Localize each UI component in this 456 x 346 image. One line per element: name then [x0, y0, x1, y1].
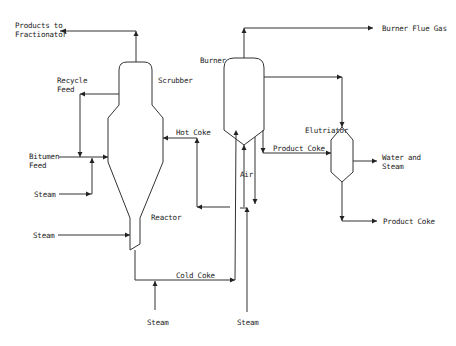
- label-steam-cold-coke: Steam: [147, 318, 169, 327]
- label-bitumen-feed: Bitumen Feed: [29, 152, 59, 170]
- label-scrubber: Scrubber: [158, 76, 193, 85]
- label-elutriator: Elutriator: [305, 126, 348, 135]
- label-reactor: Reactor: [151, 213, 181, 222]
- label-line: Bitumen: [29, 152, 59, 161]
- steam-feed-line: [59, 158, 92, 194]
- label-products-to-fractionator: Products to Fractionator: [15, 21, 67, 39]
- label-line: Feed: [29, 161, 59, 170]
- cold-coke-line: [135, 132, 236, 280]
- label-cold-coke: Cold Coke: [176, 271, 215, 280]
- recycle-feed-line: [80, 94, 119, 157]
- hot-coke-line: [163, 138, 230, 207]
- label-line: Feed: [57, 85, 87, 94]
- label-line: Products to: [15, 21, 67, 30]
- label-line: Water and: [382, 153, 421, 162]
- process-flow-diagram: Products to Fractionator Recycle Feed Sc…: [0, 0, 456, 346]
- elutriator-vessel: [331, 127, 353, 182]
- burner-flue-gas-line: [244, 28, 373, 58]
- burner-to-product-coke-line: [264, 77, 342, 127]
- burner-vessel: [224, 58, 264, 145]
- label-steam-burner: Steam: [237, 318, 259, 327]
- label-air: Air: [240, 170, 253, 179]
- label-steam-feed: Steam: [34, 190, 56, 199]
- label-line: Fractionator: [15, 30, 67, 39]
- label-burner: Burner: [200, 56, 226, 65]
- label-product-coke-to-elutriator: Product Coke: [273, 144, 325, 153]
- label-water-and-steam: Water and Steam: [382, 153, 421, 171]
- steam-burner-line: [240, 208, 247, 312]
- products-to-fractionator-line: [60, 31, 136, 62]
- label-recycle-feed: Recycle Feed: [57, 76, 87, 94]
- label-hot-coke: Hot Coke: [176, 128, 211, 137]
- label-line: Steam: [382, 162, 421, 171]
- label-product-coke-out: Product Coke: [383, 217, 435, 226]
- label-burner-flue-gas: Burner Flue Gas: [382, 24, 447, 33]
- product-coke-out-line: [342, 182, 377, 221]
- label-line: Recycle: [57, 76, 87, 85]
- label-steam-reactor: Steam: [33, 231, 55, 240]
- diagram-lines: [0, 0, 456, 346]
